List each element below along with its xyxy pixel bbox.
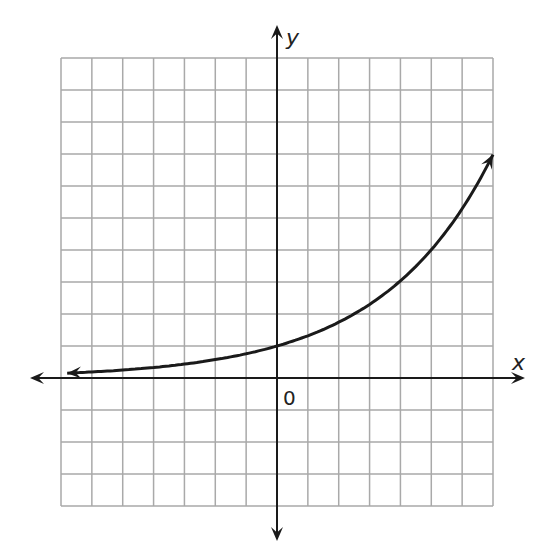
axes (34, 30, 520, 536)
y-axis-label: y (285, 25, 300, 50)
x-axis-label: x (511, 350, 526, 375)
exponential-curve (67, 155, 493, 374)
coordinate-plane: y x 0 (0, 0, 548, 553)
origin-label: 0 (283, 386, 296, 410)
